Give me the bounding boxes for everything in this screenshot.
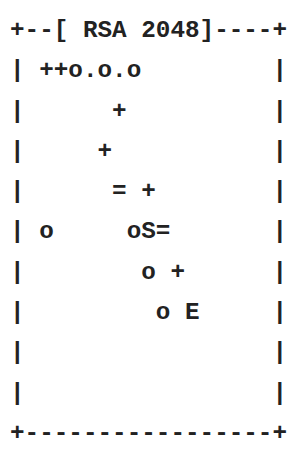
randomart-row-1: | ++o.o.o | [10, 51, 287, 91]
randomart-row-9: | | [10, 374, 287, 414]
randomart-header: +--[ RSA 2048]----+ [10, 11, 287, 51]
randomart-row-6: | o + | [10, 253, 287, 293]
ssh-key-randomart: +--[ RSA 2048]----+| ++o.o.o || + || + |… [10, 11, 287, 451]
randomart-row-5: | o oS= | [10, 212, 287, 252]
randomart-row-2: | + | [10, 92, 287, 132]
randomart-row-3: | + | [10, 132, 287, 172]
randomart-row-4: | = + | [10, 172, 287, 212]
randomart-footer: +-----------------+ [10, 414, 287, 451]
randomart-row-7: | o E | [10, 293, 287, 333]
randomart-row-8: | | [10, 333, 287, 373]
